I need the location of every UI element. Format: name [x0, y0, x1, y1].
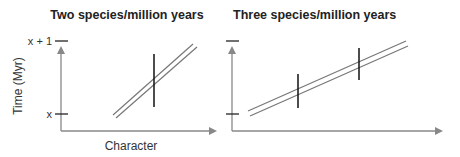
x-axis-label: Character	[105, 139, 158, 153]
diagram-canvas: Two species/million years x + 1 x Time (…	[0, 0, 460, 157]
panel-title: Three species/million years	[233, 8, 396, 22]
y-tick-label-top: x + 1	[28, 35, 52, 47]
lineage-line-1	[248, 41, 406, 111]
panel-title: Two species/million years	[50, 8, 203, 22]
panel-three-species: Three species/million years	[226, 8, 441, 131]
y-axis-label: Time (Myr)	[11, 57, 25, 115]
lineage-line-1	[113, 44, 193, 115]
y-tick-label-bottom: x	[47, 108, 53, 120]
panel-two-species: Two species/million years x + 1 x Time (…	[11, 8, 215, 153]
lineage-line-2	[116, 47, 197, 118]
lineage-line-2	[250, 46, 408, 116]
